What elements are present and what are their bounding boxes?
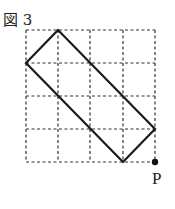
grid-diagram	[0, 0, 175, 209]
point-p-dot	[152, 159, 158, 165]
point-p-label: P	[152, 169, 161, 189]
dashed-grid	[26, 30, 155, 162]
